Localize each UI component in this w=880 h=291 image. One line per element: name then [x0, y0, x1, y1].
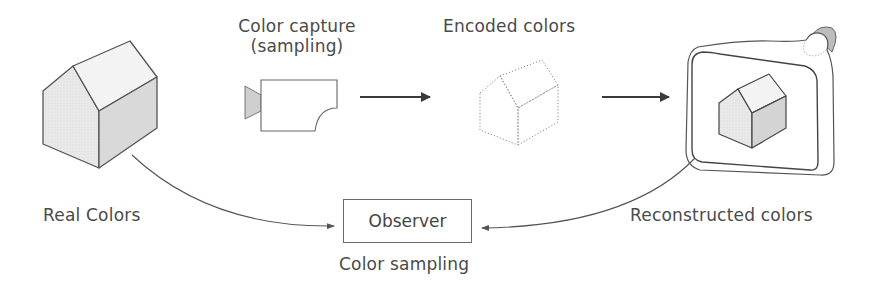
dotted-house-icon — [480, 60, 558, 145]
color-capture-label-line2: (sampling) — [222, 36, 372, 56]
observer-box: Observer — [343, 199, 472, 243]
real-colors-label: Real Colors — [43, 205, 141, 225]
color-capture-label-line1: Color capture — [222, 16, 372, 36]
diagram-canvas — [0, 0, 880, 291]
color-capture-label: Color capture (sampling) — [222, 16, 372, 56]
solid-house-icon — [43, 41, 157, 168]
tv-screen-icon — [686, 27, 836, 175]
arrow-real-to-observer — [132, 155, 334, 226]
encoded-colors-label: Encoded colors — [443, 16, 575, 36]
reconstructed-colors-label: Reconstructed colors — [630, 205, 813, 225]
color-sampling-caption: Color sampling — [339, 254, 469, 274]
video-camera-icon — [245, 80, 337, 131]
observer-label: Observer — [369, 211, 447, 231]
